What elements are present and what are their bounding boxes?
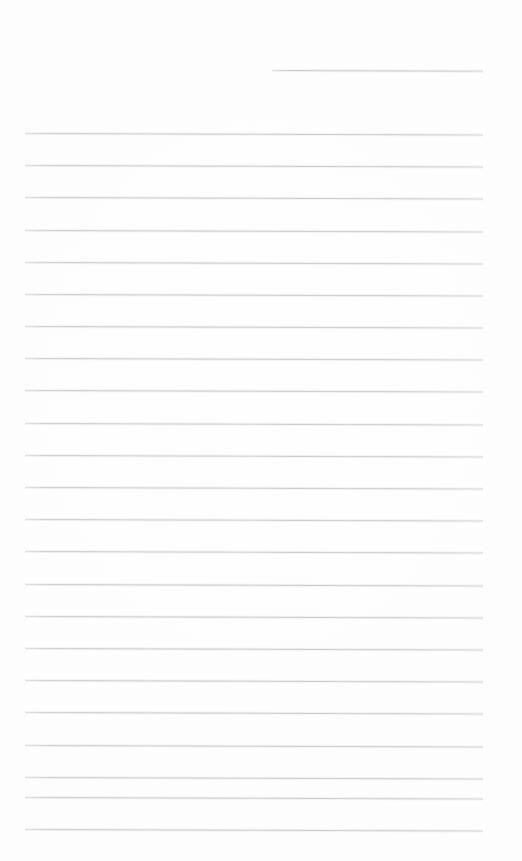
rule-line <box>25 712 483 714</box>
rule-line <box>25 551 483 553</box>
rule-line <box>25 584 483 586</box>
rule-line <box>25 829 483 831</box>
rule-line <box>25 487 483 489</box>
rule-line <box>25 230 483 232</box>
rule-line <box>25 648 483 650</box>
rule-line <box>25 358 483 360</box>
rule-line <box>25 519 483 521</box>
rule-line <box>25 777 483 779</box>
rule-line <box>25 745 483 747</box>
rule-line <box>25 262 483 264</box>
rule-line <box>25 165 483 167</box>
rule-line <box>25 197 483 199</box>
rule-line <box>25 294 483 296</box>
rule-line-partial <box>272 70 483 72</box>
paper-page <box>0 0 522 861</box>
rule-line <box>25 680 483 682</box>
rule-line <box>25 326 483 328</box>
rule-line <box>25 797 483 799</box>
rule-line <box>25 423 483 425</box>
rule-line <box>25 616 483 618</box>
rule-line <box>25 133 483 135</box>
ruled-lines-layer <box>0 0 522 861</box>
rule-line <box>25 390 483 392</box>
rule-line <box>25 455 483 457</box>
